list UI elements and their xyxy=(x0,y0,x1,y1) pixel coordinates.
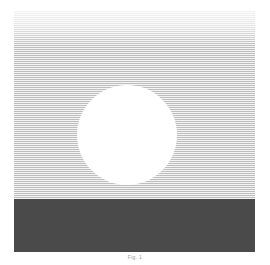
sky-haze-overlay xyxy=(14,11,255,45)
figure-caption: Fig. 1 xyxy=(0,254,270,261)
figure-root: Fig. 1 xyxy=(0,0,270,265)
ground-band xyxy=(14,199,255,252)
sun-disc xyxy=(77,85,177,185)
artwork-panel xyxy=(14,11,255,252)
